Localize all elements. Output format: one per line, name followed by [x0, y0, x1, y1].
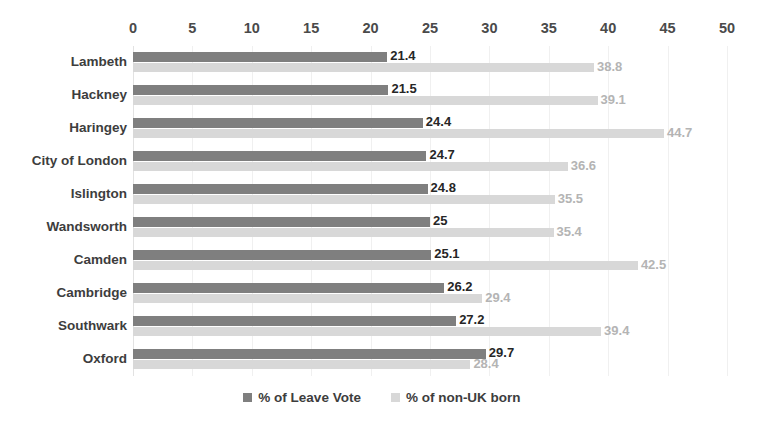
x-axis-tick-label: 20 [363, 20, 379, 36]
category-label-wandsworth: Wandsworth [0, 220, 127, 234]
bar-value-label: 44.7 [667, 128, 692, 138]
bar-value-label: 28.4 [473, 359, 498, 369]
bar-value-label: 21.5 [391, 84, 416, 94]
category-label-lambeth: Lambeth [0, 55, 127, 69]
bar-nonuk[interactable] [133, 360, 470, 369]
category-label-city-of-london: City of London [0, 154, 127, 168]
bar-value-label: 39.1 [601, 95, 626, 105]
bar-nonuk[interactable] [133, 228, 554, 237]
legend-item[interactable]: % of Leave Vote [243, 390, 361, 405]
category-label-camden: Camden [0, 253, 127, 267]
bar-nonuk[interactable] [133, 195, 555, 204]
legend-label: % of non-UK born [406, 390, 521, 405]
bar-group: 39.427.2 [133, 316, 727, 337]
bar-nonuk[interactable] [133, 96, 598, 105]
bar-leave[interactable] [133, 250, 431, 260]
category-label-oxford: Oxford [0, 352, 127, 366]
bar-group: 36.624.7 [133, 151, 727, 172]
x-axis-tick-label: 10 [244, 20, 260, 36]
x-axis-tick-label: 30 [481, 20, 497, 36]
bar-value-label: 24.4 [426, 117, 451, 127]
category-label-haringey: Haringey [0, 121, 127, 135]
bar-nonuk[interactable] [133, 162, 568, 171]
legend-label: % of Leave Vote [258, 390, 361, 405]
category-label-islington: Islington [0, 187, 127, 201]
bar-group: 39.121.5 [133, 85, 727, 106]
bar-nonuk[interactable] [133, 261, 638, 270]
legend-item[interactable]: % of non-UK born [391, 390, 521, 405]
bar-nonuk[interactable] [133, 327, 601, 336]
bar-group: 28.429.7 [133, 349, 727, 370]
bar-nonuk[interactable] [133, 63, 594, 72]
bar-value-label: 29.7 [489, 348, 514, 358]
bar-leave[interactable] [133, 217, 430, 227]
bar-leave[interactable] [133, 151, 426, 161]
bar-group: 38.821.4 [133, 52, 727, 73]
x-axis-tick-labels: 05101520253035404550 [133, 20, 727, 42]
category-axis-labels: LambethHackneyHaringeyCity of LondonIsli… [0, 46, 127, 376]
bar-value-label: 39.4 [604, 326, 629, 336]
x-axis-tick-label: 35 [541, 20, 557, 36]
bar-value-label: 25 [433, 216, 447, 226]
category-label-southwark: Southwark [0, 319, 127, 333]
bar-value-label: 27.2 [459, 315, 484, 325]
bar-value-label: 29.4 [485, 293, 510, 303]
bar-leave[interactable] [133, 118, 423, 128]
bar-value-label: 24.7 [429, 150, 454, 160]
x-axis-tick-label: 45 [660, 20, 676, 36]
plot-area: 38.821.439.121.544.724.436.624.735.524.8… [133, 46, 727, 376]
bar-group: 29.426.2 [133, 283, 727, 304]
gridline [727, 46, 728, 376]
x-axis-tick-label: 0 [129, 20, 137, 36]
bar-nonuk[interactable] [133, 294, 482, 303]
legend-swatch-icon [391, 393, 400, 402]
x-axis-tick-label: 40 [600, 20, 616, 36]
bar-group: 35.524.8 [133, 184, 727, 205]
bar-nonuk[interactable] [133, 129, 664, 138]
legend-swatch-icon [243, 393, 252, 402]
bar-value-label: 35.5 [558, 194, 583, 204]
bar-leave[interactable] [133, 52, 387, 62]
category-label-cambridge: Cambridge [0, 286, 127, 300]
bar-group: 35.425 [133, 217, 727, 238]
bar-leave[interactable] [133, 316, 456, 326]
bar-leave[interactable] [133, 184, 428, 194]
x-axis-tick-label: 15 [303, 20, 319, 36]
bar-leave[interactable] [133, 283, 444, 293]
bar-value-label: 38.8 [597, 62, 622, 72]
bar-group: 44.724.4 [133, 118, 727, 139]
x-axis-tick-label: 25 [422, 20, 438, 36]
bar-value-label: 42.5 [641, 260, 666, 270]
bar-value-label: 35.4 [557, 227, 582, 237]
bar-value-label: 21.4 [390, 51, 415, 61]
bar-value-label: 26.2 [447, 282, 472, 292]
x-axis-tick-label: 50 [719, 20, 735, 36]
bar-value-label: 25.1 [434, 249, 459, 259]
x-axis-tick-label: 5 [188, 20, 196, 36]
bar-leave[interactable] [133, 349, 486, 359]
bar-value-label: 36.6 [571, 161, 596, 171]
chart-legend: % of Leave Vote% of non-UK born [0, 390, 764, 405]
bar-leave[interactable] [133, 85, 388, 95]
bar-chart: 05101520253035404550 LambethHackneyHarin… [0, 0, 764, 440]
category-label-hackney: Hackney [0, 88, 127, 102]
bar-group: 42.525.1 [133, 250, 727, 271]
bar-value-label: 24.8 [431, 183, 456, 193]
